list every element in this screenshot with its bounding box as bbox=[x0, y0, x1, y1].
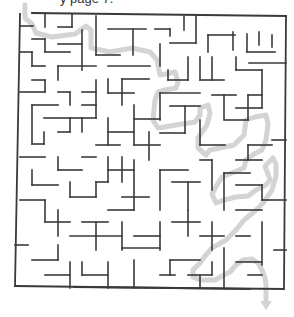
solution-path bbox=[25, 5, 276, 300]
maze-puzzle bbox=[0, 0, 294, 317]
arrow-down-icon bbox=[260, 301, 272, 310]
solution-path-line bbox=[25, 5, 276, 300]
exit-arrow-icon bbox=[260, 301, 272, 310]
maze-border-wall bbox=[284, 16, 286, 287]
maze-border-wall bbox=[32, 13, 286, 16]
